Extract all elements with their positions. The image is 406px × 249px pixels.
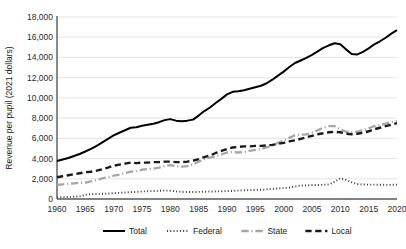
x-tick-1975: 1975	[133, 204, 152, 214]
y-axis-tick-labels: 02,0004,0006,0008,00010,00012,00014,0001…	[27, 12, 53, 204]
y-tick-16,000: 16,000	[27, 32, 53, 42]
revenue-per-pupil-line-chart: 02,0004,0006,0008,00010,00012,00014,0001…	[0, 0, 406, 249]
x-tick-1970: 1970	[104, 204, 123, 214]
y-tick-8,000: 8,000	[32, 113, 54, 123]
y-tick-12,000: 12,000	[27, 73, 53, 83]
x-tick-2000: 2000	[274, 204, 293, 214]
y-tick-2,000: 2,000	[32, 174, 54, 184]
x-tick-1960: 1960	[48, 204, 67, 214]
x-tick-2020: 2020	[388, 204, 406, 214]
x-tick-2015: 2015	[359, 204, 378, 214]
axis-lines	[57, 16, 397, 199]
series-line-federal	[57, 178, 397, 197]
y-axis-title: Revenue per pupil (2021 dollars)	[4, 46, 14, 169]
y-tick-10,000: 10,000	[27, 93, 53, 103]
chart-legend: TotalFederalStateLocal	[103, 226, 352, 236]
legend-label-total: Total	[129, 226, 147, 236]
x-axis-tick-labels: 1960196519701975198019851990199520002005…	[48, 204, 406, 214]
legend-label-federal: Federal	[193, 226, 222, 236]
x-tick-2010: 2010	[331, 204, 350, 214]
x-tick-2005: 2005	[303, 204, 322, 214]
x-tick-1990: 1990	[218, 204, 237, 214]
x-tick-1980: 1980	[161, 204, 180, 214]
gridlines	[57, 17, 397, 179]
y-tick-14,000: 14,000	[27, 52, 53, 62]
chart-canvas: 02,0004,0006,0008,00010,00012,00014,0001…	[0, 0, 406, 249]
y-tick-0: 0	[48, 194, 53, 204]
legend-label-state: State	[267, 226, 287, 236]
series-line-total	[57, 30, 397, 161]
y-tick-6,000: 6,000	[32, 133, 54, 143]
legend-label-local: Local	[331, 226, 351, 236]
x-tick-1995: 1995	[246, 204, 265, 214]
data-series-group	[57, 30, 397, 197]
series-line-state	[57, 121, 397, 185]
x-tick-1965: 1965	[76, 204, 95, 214]
y-tick-4,000: 4,000	[32, 154, 54, 164]
x-tick-1985: 1985	[189, 204, 208, 214]
y-tick-18,000: 18,000	[27, 12, 53, 22]
